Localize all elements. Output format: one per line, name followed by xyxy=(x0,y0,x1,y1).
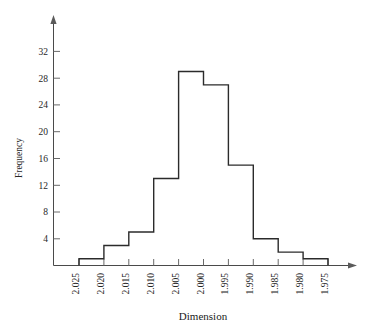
y-tick-label: 28 xyxy=(39,74,49,84)
histogram-chart: 4 8 12 16 20 24 28 32 Frequency 2 xyxy=(0,0,392,329)
y-tick-label: 24 xyxy=(39,100,49,110)
x-axis-arrow-icon xyxy=(348,262,357,268)
x-tick-label: 1.995 xyxy=(220,273,230,295)
x-tick-label: 1.985 xyxy=(270,273,280,295)
histogram-figure: 4 8 12 16 20 24 28 32 Frequency 2 xyxy=(0,0,392,329)
y-tick-label: 20 xyxy=(39,127,49,137)
x-tick-label: 2.000 xyxy=(196,273,206,295)
y-tick-marks xyxy=(54,51,61,238)
y-axis-title: Frequency xyxy=(14,138,24,178)
x-tick-label: 2.010 xyxy=(146,273,156,295)
x-tick-label: 2.020 xyxy=(96,273,106,295)
x-tick-label: 1.990 xyxy=(245,273,255,295)
x-tick-label: 2.015 xyxy=(121,273,131,295)
x-tick-marks xyxy=(79,259,328,266)
y-tick-label: 8 xyxy=(43,207,48,217)
x-tick-labels: 2.025 2.020 2.015 2.010 2.005 2.000 1.99… xyxy=(71,273,330,295)
y-tick-label: 16 xyxy=(39,154,49,164)
y-tick-label: 12 xyxy=(39,181,49,191)
y-tick-label: 4 xyxy=(43,234,48,244)
y-tick-label: 32 xyxy=(39,47,49,57)
y-axis-arrow-icon xyxy=(50,15,56,24)
x-tick-label: 1.975 xyxy=(320,273,330,295)
histogram-bars xyxy=(79,71,328,265)
x-tick-label: 2.005 xyxy=(171,273,181,295)
x-tick-label: 1.980 xyxy=(295,273,305,295)
x-axis-title: Dimension xyxy=(179,310,228,322)
x-tick-label: 2.025 xyxy=(71,273,81,295)
y-tick-labels: 4 8 12 16 20 24 28 32 xyxy=(39,47,49,244)
